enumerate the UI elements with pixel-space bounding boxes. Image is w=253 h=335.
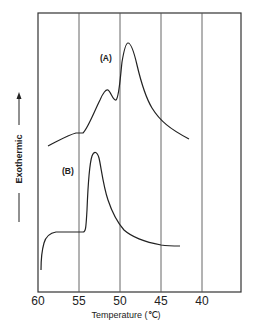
x-tick-60: 60 (31, 294, 45, 308)
series-label-a: (A) (100, 53, 112, 63)
x-tick-45: 45 (154, 294, 168, 308)
dsc-chart: (A) (B) 60 55 50 45 40 Temperature (℃) E… (0, 0, 253, 335)
y-axis-label: Exothermic (14, 134, 24, 183)
up-arrow-icon (17, 92, 22, 99)
x-tick-55: 55 (72, 294, 86, 308)
y-axis-label-group: Exothermic (14, 92, 24, 222)
grid-lines (79, 13, 202, 292)
x-tick-40: 40 (195, 294, 209, 308)
curve-a (48, 43, 189, 146)
series-label-b: (B) (62, 166, 74, 176)
x-axis-label: Temperature (℃) (91, 310, 160, 320)
x-tick-50: 50 (113, 294, 127, 308)
plot-frame (38, 13, 241, 292)
